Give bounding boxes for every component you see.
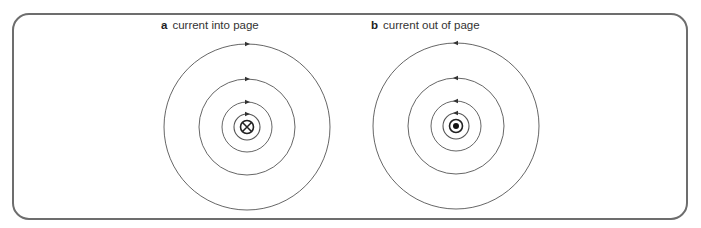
direction-arrow-icon bbox=[453, 99, 458, 103]
direction-arrow-icon bbox=[245, 77, 250, 81]
panel-b-field-lines bbox=[373, 41, 539, 209]
field-diagram bbox=[0, 0, 701, 228]
direction-arrow-icon bbox=[453, 76, 458, 80]
panel-a-field-lines bbox=[164, 42, 330, 210]
direction-arrow-icon bbox=[245, 112, 250, 116]
direction-arrow-icon bbox=[453, 111, 458, 115]
dot-icon bbox=[453, 123, 459, 129]
direction-arrow-icon bbox=[453, 41, 458, 45]
direction-arrow-icon bbox=[245, 100, 250, 104]
direction-arrow-icon bbox=[245, 42, 250, 46]
